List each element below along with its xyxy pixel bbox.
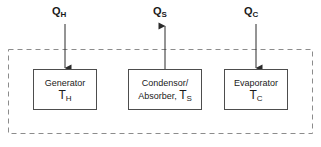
unit-evaporator-temperature: TC: [249, 89, 262, 103]
q-h-label: QH: [52, 6, 66, 17]
unit-generator-temp-subscript: H: [66, 94, 72, 103]
q-c-subscript: C: [253, 10, 259, 19]
q-c-symbol: Q: [244, 5, 253, 17]
unit-condensor-absorber-temp-subscript: S: [187, 94, 192, 103]
unit-condensor-absorber-temperature: TS: [179, 88, 192, 102]
q-c-label: QC: [244, 6, 258, 17]
unit-evaporator: Evaporator TC: [224, 69, 288, 110]
q-h-subscript: H: [61, 10, 67, 19]
unit-generator: Generator TH: [33, 69, 97, 110]
unit-condensor-absorber: Condensor/ Absorber, TS: [128, 69, 202, 110]
q-h-symbol: Q: [52, 5, 61, 17]
q-s-label: QS: [153, 6, 167, 17]
unit-evaporator-temp-symbol: T: [249, 88, 256, 102]
q-s-symbol: Q: [153, 5, 162, 17]
unit-condensor-absorber-line2: Absorber, TS: [138, 89, 192, 103]
unit-evaporator-temp-subscript: C: [257, 94, 263, 103]
unit-condensor-absorber-temp-symbol: T: [179, 88, 186, 102]
unit-condensor-absorber-line2-text: Absorber,: [138, 91, 179, 101]
unit-generator-temp-symbol: T: [58, 88, 65, 102]
thermodynamic-cycle-diagram: QH QS QC Generator TH Condensor/ Absorbe…: [0, 0, 321, 147]
q-s-subscript: S: [162, 10, 167, 19]
unit-generator-temperature: TH: [58, 89, 71, 103]
